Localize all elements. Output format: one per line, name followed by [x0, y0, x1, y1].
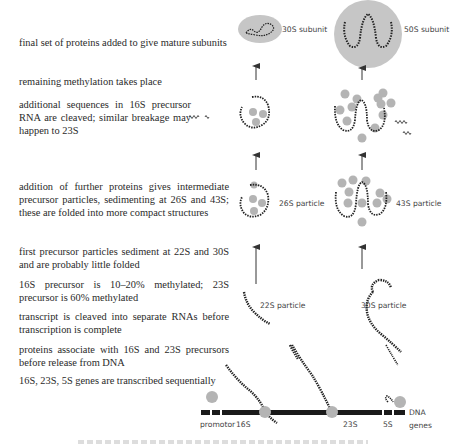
label-genes: genes [409, 421, 432, 430]
label-promotor: promotor [200, 420, 235, 429]
label-gene-23s: 23S [343, 420, 357, 429]
particle-30s [367, 280, 401, 352]
rna-polymerase-free [206, 391, 218, 403]
nascent-rna-5s [386, 345, 398, 402]
label-43s-particle: 43S particle [396, 199, 442, 208]
rna-polymerase-16s [259, 406, 271, 418]
dna-bar [201, 410, 405, 415]
rna-polymerase-5s [394, 396, 406, 408]
cleaved-23s-particle [335, 89, 396, 143]
particle-26s [240, 182, 268, 217]
subunit-50s [334, 0, 402, 68]
label-30s-particle: 30S particle [361, 301, 407, 310]
label-dna: DNA [409, 408, 426, 417]
label-gene-5s: 5S [383, 420, 393, 429]
label-22s-particle: 22S particle [260, 301, 306, 310]
cleaved-fragments-16s [189, 116, 209, 119]
label-30s-subunit: 30S subunit [282, 25, 327, 34]
cleaved-16s-particle [240, 97, 269, 128]
label-gene-16s: 16S [236, 420, 250, 429]
ribosome-assembly-diagram [0, 0, 453, 444]
label-50s-subunit: 50S subunit [404, 25, 449, 34]
cleaved-fragments-23s [395, 121, 411, 135]
subunit-30s [238, 15, 282, 43]
label-26s-particle: 26S particle [279, 199, 325, 208]
nascent-rna-23s [292, 345, 333, 415]
rna-polymerase-23s [326, 406, 338, 418]
caption-cutoff [78, 440, 368, 444]
particle-43s [336, 176, 392, 227]
